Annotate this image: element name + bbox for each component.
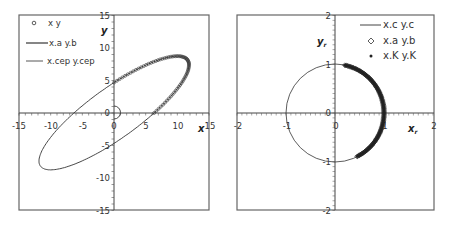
left-ytick: -5: [102, 141, 110, 151]
right-xtick: 0: [333, 121, 338, 131]
legend-label: x.c y.c: [383, 19, 414, 30]
right-xtick: 2: [431, 121, 436, 131]
left-ytick: -10: [96, 173, 110, 183]
left-y-axis-title: y: [101, 25, 108, 36]
left-chart: -15 -10 -5 0 5 10 15 15 10 5 0 -5 -10 -1…: [12, 11, 215, 216]
right-legend: x.c y.c x.a y.b x.K y.K: [360, 19, 417, 61]
legend-label: x.a y.b: [49, 38, 77, 48]
legend-label: x.a y.b: [383, 35, 415, 46]
right-ytick: 0: [326, 108, 331, 118]
left-xtick: -10: [44, 121, 58, 131]
left-xtick: 10: [173, 121, 184, 131]
left-xtick: 15: [205, 121, 216, 131]
series-x-y-markers: [113, 55, 191, 115]
series-xa-yb-and-xK-yK-markers: [342, 63, 386, 159]
figure: -15 -10 -5 0 5 10 15 15 10 5 0 -5 -10 -1…: [0, 0, 451, 226]
right-ytick: 2: [326, 11, 331, 21]
legend-label: x.K y.K: [383, 50, 417, 61]
right-x-axis-title: xr: [407, 123, 418, 135]
legend-label: x y: [48, 18, 61, 28]
right-xtick: -2: [234, 121, 242, 131]
left-ytick: 5: [105, 76, 110, 86]
legend-label: x.cep y.cep: [47, 56, 95, 66]
left-xtick: -5: [79, 121, 87, 131]
legend-circle-marker-icon: [32, 21, 36, 25]
left-xtick: 0: [111, 121, 116, 131]
left-ytick: 15: [99, 11, 110, 21]
left-xtick: -15: [12, 121, 26, 131]
left-xtick: 5: [143, 121, 148, 131]
left-ytick: 0: [105, 108, 110, 118]
left-ytick: -15: [96, 206, 110, 216]
left-x-axis-title: x: [197, 123, 205, 134]
legend-dot-marker-icon: [370, 55, 373, 58]
legend-diamond-marker-icon: [368, 38, 374, 44]
left-ytick: 10: [99, 43, 110, 53]
right-ytick: -2: [323, 206, 331, 216]
left-legend: x y x.a y.b x.cep y.cep: [26, 18, 95, 66]
right-y-axis-title: yr: [317, 36, 328, 48]
right-chart: -2 -1 0 1 2 2 1 0 -1 -2 xr yr x.c y.c x.…: [234, 11, 437, 216]
